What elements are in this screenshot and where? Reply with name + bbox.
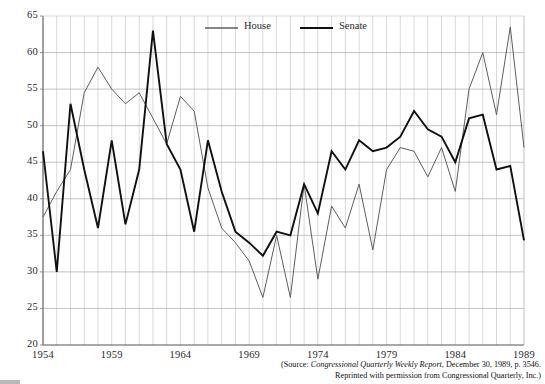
- x-tick-1969: 1969: [233, 349, 265, 360]
- x-tick-1974: 1974: [302, 349, 334, 360]
- legend-label-senate: Senate: [339, 20, 367, 31]
- y-tick-45: 45: [10, 155, 38, 166]
- x-tick-1984: 1984: [439, 349, 471, 360]
- x-tick-1959: 1959: [96, 349, 128, 360]
- source-note-line-2: Reprinted with permission from Congressi…: [0, 371, 541, 382]
- y-tick-60: 60: [10, 46, 38, 57]
- y-tick-65: 65: [10, 9, 38, 20]
- y-tick-50: 50: [10, 119, 38, 130]
- chart-plot-area: [0, 0, 545, 384]
- y-tick-55: 55: [10, 82, 38, 93]
- source-prefix: (Source:: [281, 360, 311, 369]
- y-tick-40: 40: [10, 192, 38, 203]
- source-suffix: , December 30, 1989, p. 3546.: [442, 360, 541, 369]
- y-tick-30: 30: [10, 265, 38, 276]
- x-tick-1964: 1964: [164, 349, 196, 360]
- series-line-senate: [43, 31, 524, 272]
- chart-figure: 20253035404550556065 1954195919641969197…: [0, 0, 545, 384]
- y-tick-20: 20: [10, 338, 38, 349]
- y-tick-35: 35: [10, 228, 38, 239]
- x-tick-1989: 1989: [508, 349, 540, 360]
- y-tick-25: 25: [10, 301, 38, 312]
- source-note: (Source: Congressional Quarterly Weekly …: [0, 360, 545, 381]
- page-corner-mark: [0, 380, 20, 384]
- x-tick-1954: 1954: [27, 349, 59, 360]
- source-note-line-1: (Source: Congressional Quarterly Weekly …: [0, 360, 541, 371]
- source-publication: Congressional Quarterly Weekly Report: [311, 360, 442, 369]
- legend-label-house: House: [244, 20, 271, 31]
- x-tick-1979: 1979: [371, 349, 403, 360]
